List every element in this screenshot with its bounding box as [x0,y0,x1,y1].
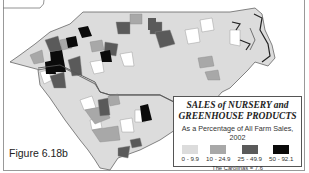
figure-label: Figure 6.18b [9,147,68,159]
swatch-0-9 [182,145,198,154]
swatch-50-92 [273,145,289,154]
legend-class-3: 25 - 49.9 [238,145,262,162]
swatch-10-24 [210,145,226,154]
legend-class-2: 10 - 24.9 [206,145,230,162]
map-legend: SALES of NURSERY and GREENHOUSE PRODUCTS… [173,96,302,167]
legend-title: SALES of NURSERY and GREENHOUSE PRODUCTS [174,100,301,121]
legend-class-1: 0 - 9.9 [182,145,200,162]
legend-subtitle: As a Percentage of All Farm Sales, 2002 [174,124,301,142]
legend-title-line2: GREENHOUSE PRODUCTS [174,111,301,122]
carolinas-total: The Carolinas = 7.6 [174,165,301,171]
legend-title-line1: SALES of NURSERY and [174,100,301,111]
swatch-label: 25 - 49.9 [238,155,262,162]
legend-swatches: 0 - 9.9 10 - 24.9 25 - 49.9 50 - 92.1 [174,145,301,162]
swatch-label: 0 - 9.9 [182,155,200,162]
swatch-label: 50 - 92.1 [269,155,293,162]
legend-class-4: 50 - 92.1 [269,145,293,162]
swatch-label: 10 - 24.9 [206,155,230,162]
swatch-25-49 [242,145,258,154]
